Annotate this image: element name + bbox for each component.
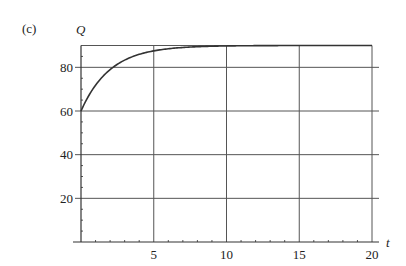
gridlines — [75, 46, 379, 243]
x-tick-label: 5 — [151, 247, 158, 262]
y-tick-label: 60 — [60, 104, 73, 119]
y-axis-label: Q — [76, 22, 86, 37]
x-axis-label: t — [386, 235, 390, 250]
x-tick-label: 15 — [293, 247, 306, 262]
y-tick-label: 80 — [60, 60, 73, 75]
chart: (c) Q t 204060805101520 — [0, 0, 406, 266]
y-tick-label: 20 — [60, 191, 73, 206]
x-tick-label: 10 — [220, 247, 233, 262]
x-tick-label: 20 — [366, 247, 379, 262]
tick-labels: 204060805101520 — [60, 60, 379, 262]
y-tick-label: 40 — [60, 147, 73, 162]
panel-label: (c) — [22, 21, 36, 36]
